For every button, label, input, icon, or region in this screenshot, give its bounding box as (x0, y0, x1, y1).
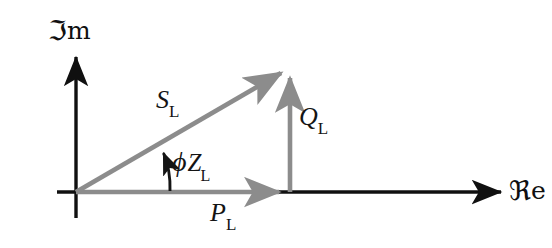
impedance-subscript: L (200, 167, 210, 184)
real-power-symbol: P (210, 198, 226, 227)
apparent-power-subscript: L (169, 102, 179, 121)
reactive-power-symbol: Q (299, 102, 318, 131)
fraktur-im-glyph: ℑ (48, 15, 67, 46)
fraktur-re-glyph: ℜ (509, 175, 531, 206)
phase-angle-arc (164, 153, 171, 191)
phase-angle-label: ϕZL (172, 148, 210, 180)
phasor-diagram-figure: ℑm ℜe SL QL PL ϕZL (0, 0, 552, 248)
real-power-label: PL (210, 200, 236, 230)
reactive-power-label: QL (299, 104, 328, 134)
real-axis-label-suffix: e (531, 176, 546, 205)
imaginary-axis-label-suffix: m (67, 16, 91, 45)
imaginary-axis-label: ℑm (48, 16, 91, 43)
phi-glyph: ϕ (172, 146, 187, 177)
real-axis-label: ℜe (509, 176, 546, 203)
reactive-power-subscript: L (318, 119, 328, 138)
real-power-subscript: L (226, 215, 236, 234)
apparent-power-symbol: S (156, 85, 169, 114)
apparent-power-label: SL (156, 87, 179, 117)
